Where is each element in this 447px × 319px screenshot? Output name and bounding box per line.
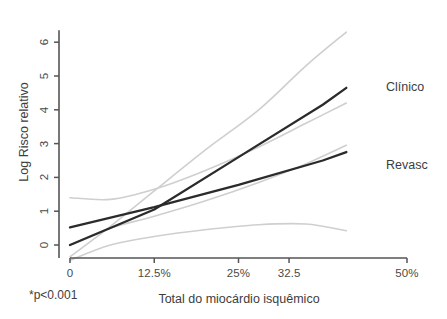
y-axis-tick-label: 1 bbox=[38, 208, 50, 215]
footnote-significance: *p<0.001 bbox=[29, 288, 77, 302]
x-axis-tick-label: 25% bbox=[227, 267, 250, 279]
confidence-band-revasc-lower bbox=[70, 224, 346, 261]
series-label-revasc: Revasc bbox=[386, 158, 428, 172]
y-axis-tick-label: 0 bbox=[38, 242, 50, 249]
chart-container: 012.5%25%32.550% 0123456 Log Risco relat… bbox=[0, 0, 447, 319]
x-axis-tick-label: 12.5% bbox=[138, 267, 171, 279]
x-axis-tick-label: 0 bbox=[67, 267, 74, 279]
data-line-revasc bbox=[70, 152, 346, 227]
y-axis-tick-label: 6 bbox=[38, 39, 50, 46]
confidence-band-clinico-upper bbox=[70, 32, 346, 257]
y-axis-title: Log Risco relativo bbox=[17, 82, 31, 181]
x-axis-title: Total do miocárdio isquêmico bbox=[158, 292, 319, 306]
confidence-band-clinico-lower bbox=[70, 103, 346, 200]
y-axis-tick-label: 3 bbox=[38, 140, 50, 147]
series-label-clinico: Clínico bbox=[386, 80, 424, 94]
y-axis-tick-label: 2 bbox=[38, 174, 50, 181]
y-axis-tick-label: 5 bbox=[38, 73, 50, 80]
x-axis-tick-label: 50% bbox=[395, 267, 418, 279]
x-axis-tick-label: 32.5 bbox=[278, 267, 301, 279]
y-axis-tick-label: 4 bbox=[38, 107, 50, 114]
